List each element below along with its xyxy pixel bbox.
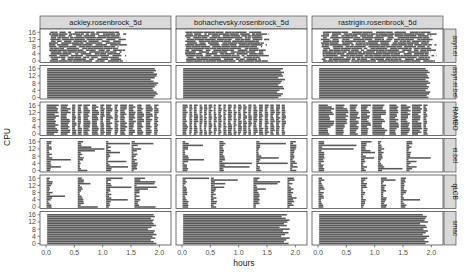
y-tick-label: 0	[32, 167, 36, 174]
cpu-bars	[183, 68, 285, 98]
column-strip-label: ackley.rosenbrock_5d	[69, 18, 141, 27]
row-strip: asyn.ei.bel	[444, 66, 459, 100]
x-tick-label: 2.0	[290, 249, 300, 256]
y-axis: 0481216	[28, 211, 40, 247]
row-strip-label: RAMBO	[452, 107, 459, 131]
y-tick-label: 16	[28, 138, 36, 145]
row-strip-label: asyn.ei	[451, 35, 459, 56]
facet-panel	[312, 212, 443, 246]
facet-panel	[176, 102, 307, 136]
x-tick-label: 1.5	[126, 249, 136, 256]
facet-panel	[312, 29, 443, 63]
column-strip-label: bohachevsky.rosenbrock_5d	[194, 18, 289, 27]
x-tick-label: 0.5	[341, 249, 351, 256]
row-strip-label: qLCB	[451, 184, 459, 200]
facet-panel	[312, 175, 443, 209]
y-axis: 0481216	[28, 65, 40, 101]
y-tick-label: 4	[32, 196, 36, 203]
x-tick-label: 1.5	[262, 249, 272, 256]
column-strip-label: rastrigin.rosenbrock_5d	[338, 18, 416, 27]
facet-panel	[40, 102, 171, 136]
y-tick-label: 8	[32, 43, 36, 50]
y-tick-label: 4	[32, 233, 36, 240]
x-tick-label: 0.0	[177, 249, 187, 256]
y-axis: 0481216	[28, 102, 40, 138]
row-strip-label: smac	[452, 220, 459, 236]
facet-panel	[40, 175, 171, 209]
facet-panel	[176, 29, 307, 63]
cpu-utilization-facet-chart: ackley.rosenbrock_5dbohachevsky.rosenbro…	[0, 0, 474, 279]
x-axis: 0.00.51.01.52.0	[313, 245, 436, 256]
facet-panel	[312, 102, 443, 136]
y-tick-label: 12	[28, 109, 36, 116]
y-tick-label: 0	[32, 94, 36, 101]
chart-canvas: ackley.rosenbrock_5dbohachevsky.rosenbro…	[0, 0, 474, 279]
y-tick-label: 12	[28, 145, 36, 152]
y-axis-title: CPU	[2, 128, 12, 146]
x-tick-label: 0.5	[69, 249, 79, 256]
y-tick-label: 4	[32, 87, 36, 94]
x-tick-label: 1.0	[234, 249, 244, 256]
y-tick-label: 12	[28, 218, 36, 225]
facet-panel	[176, 66, 307, 100]
column-strip: bohachevsky.rosenbrock_5d	[176, 16, 307, 29]
y-tick-label: 16	[28, 175, 36, 182]
row-strip: ei.bel	[444, 139, 459, 173]
x-tick-label: 0.5	[205, 249, 215, 256]
x-tick-label: 2.0	[154, 249, 164, 256]
row-strip-label: ei.bel	[452, 147, 459, 163]
y-tick-label: 8	[32, 226, 36, 233]
x-tick-label: 1.0	[98, 249, 108, 256]
y-axis: 0481216	[28, 29, 40, 65]
y-tick-label: 12	[28, 36, 36, 43]
cpu-bars	[47, 105, 159, 135]
x-tick-label: 0.0	[41, 249, 51, 256]
row-strip: RAMBO	[444, 102, 459, 136]
facet-panel	[40, 66, 171, 100]
y-tick-label: 0	[32, 130, 36, 137]
x-tick-label: 0.0	[313, 249, 323, 256]
row-strip: qLCB	[444, 175, 459, 209]
y-tick-label: 16	[28, 102, 36, 109]
facet-panel	[176, 139, 307, 173]
row-strip: asyn.ei	[444, 29, 459, 63]
facet-panel	[40, 139, 171, 173]
cpu-bars	[183, 214, 290, 244]
cpu-bars	[47, 68, 158, 98]
y-axis: 0481216	[28, 138, 40, 174]
y-tick-label: 8	[32, 189, 36, 196]
y-tick-label: 0	[32, 203, 36, 210]
cpu-bars	[47, 214, 156, 244]
y-tick-label: 4	[32, 160, 36, 167]
facet-panel	[176, 212, 307, 246]
column-strip: rastrigin.rosenbrock_5d	[312, 16, 443, 29]
x-tick-label: 1.5	[398, 249, 408, 256]
y-tick-label: 16	[28, 65, 36, 72]
y-tick-label: 4	[32, 50, 36, 57]
facet-panel	[312, 139, 443, 173]
x-tick-label: 2.0	[426, 249, 436, 256]
facet-panel	[176, 175, 307, 209]
x-axis: 0.00.51.01.52.0	[41, 245, 164, 256]
y-axis: 0481216	[28, 175, 40, 211]
x-axis: 0.00.51.01.52.0	[177, 245, 300, 256]
y-tick-label: 12	[28, 182, 36, 189]
column-strip: ackley.rosenbrock_5d	[40, 16, 171, 29]
y-tick-label: 8	[32, 116, 36, 123]
y-tick-label: 8	[32, 153, 36, 160]
y-tick-label: 4	[32, 123, 36, 130]
row-strip-label: asyn.ei.bel	[451, 67, 459, 99]
cpu-bars	[319, 68, 430, 98]
facet-panel	[40, 29, 171, 63]
x-axis-title: hours	[233, 258, 254, 268]
facet-panel	[40, 212, 171, 246]
y-tick-label: 12	[28, 72, 36, 79]
y-tick-label: 16	[28, 29, 36, 36]
y-tick-label: 0	[32, 240, 36, 247]
cpu-bars	[319, 214, 429, 244]
facet-panel	[312, 66, 443, 100]
y-tick-label: 8	[32, 80, 36, 87]
y-tick-label: 16	[28, 211, 36, 218]
y-tick-label: 0	[32, 57, 36, 64]
row-strip: smac	[444, 212, 459, 246]
